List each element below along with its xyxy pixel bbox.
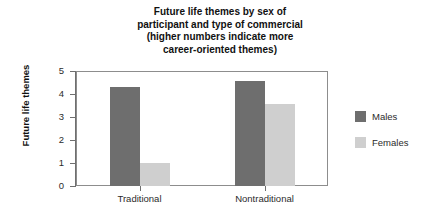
y-axis-tick-label: 4 bbox=[44, 89, 64, 99]
y-axis-tick-label: 5 bbox=[44, 66, 64, 76]
bar-females-nontraditional bbox=[265, 104, 295, 186]
y-axis-tick-label: 3 bbox=[44, 112, 64, 122]
x-axis-tick bbox=[265, 186, 266, 191]
y-axis-tick-label: 2 bbox=[44, 135, 64, 145]
y-axis-title: Future life themes bbox=[20, 56, 31, 156]
y-axis-tick bbox=[70, 94, 76, 95]
legend-swatch-females bbox=[355, 137, 366, 148]
y-axis-tick-label: 1 bbox=[44, 158, 64, 168]
bars-layer bbox=[77, 72, 327, 186]
y-axis-tick bbox=[70, 163, 76, 164]
bar-males-nontraditional bbox=[235, 81, 265, 186]
x-axis-label-nontraditional: Nontraditional bbox=[205, 193, 325, 204]
x-axis-tick bbox=[140, 186, 141, 191]
chart-legend: MalesFemales bbox=[355, 103, 408, 155]
legend-swatch-males bbox=[355, 111, 366, 122]
bar-females-traditional bbox=[140, 163, 170, 186]
y-axis-tick bbox=[70, 186, 76, 187]
legend-label-males: Males bbox=[372, 111, 397, 122]
legend-item-females: Females bbox=[355, 129, 408, 155]
legend-item-males: Males bbox=[355, 103, 408, 129]
y-axis-tick bbox=[70, 140, 76, 141]
y-axis-tick bbox=[70, 117, 76, 118]
y-axis-tick-label: 0 bbox=[44, 181, 64, 191]
chart-title: Future life themes by sex of participant… bbox=[60, 6, 380, 56]
y-axis-line bbox=[75, 71, 76, 187]
y-axis-tick bbox=[70, 71, 76, 72]
bar-males-traditional bbox=[110, 87, 140, 186]
legend-label-females: Females bbox=[372, 137, 408, 148]
x-axis-label-traditional: Traditional bbox=[80, 193, 200, 204]
